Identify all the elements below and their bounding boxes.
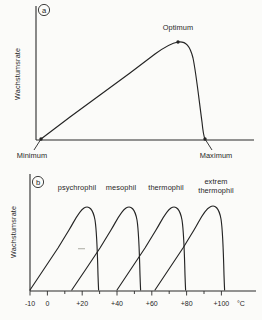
tick-label-plus60: +60 <box>146 300 158 307</box>
curve-label-thermophil: thermophil <box>148 183 184 192</box>
curve-psychrophil <box>30 207 99 290</box>
tick-label-0: 0 <box>45 300 49 307</box>
panel-b-y-axis-label: Wachstumsrate <box>9 206 18 258</box>
panel-a: Optimum Minimum Maximum Wachstumsrate a <box>0 0 262 160</box>
maximum-label: Maximum <box>200 151 233 160</box>
curve-thermophil <box>117 207 186 290</box>
tick-label-plus20: +20 <box>76 300 88 307</box>
figure-root: Optimum Minimum Maximum Wachstumsrate a <box>0 0 262 320</box>
scan-speck-artifact <box>78 248 85 249</box>
maximum-leader-line <box>205 139 212 150</box>
tick-label-plus40: +40 <box>111 300 123 307</box>
panel-a-growth-curve <box>41 42 205 139</box>
curve-label-extrem-thermophil: thermophil <box>198 186 234 195</box>
curve-label-extrem: extrem <box>204 177 227 186</box>
panel-a-chart: Optimum Minimum Maximum Wachstumsrate a <box>0 0 262 160</box>
panel-a-marker-label: a <box>42 6 47 15</box>
panel-a-y-axis-label: Wachstumsrate <box>13 48 22 100</box>
tick-label-plus100: +100 <box>214 300 230 307</box>
curve-label-psychrophil: psychrophil <box>58 183 97 192</box>
panel-b-marker-label: b <box>36 178 40 187</box>
tick-label-plus80: +80 <box>181 300 193 307</box>
panel-b: psychrophil mesophil thermophil extrem t… <box>0 160 262 320</box>
tick-label-minus10: -10 <box>25 300 35 307</box>
curve-extrem-thermophil <box>155 206 225 290</box>
x-axis-unit-label: °C <box>237 300 245 307</box>
optimum-label: Optimum <box>163 23 194 32</box>
optimum-point-marker <box>176 40 179 43</box>
curve-label-mesophil: mesophil <box>106 183 137 192</box>
panel-b-chart: psychrophil mesophil thermophil extrem t… <box>0 160 262 320</box>
minimum-label: Minimum <box>17 151 48 160</box>
minimum-leader-line <box>34 139 41 150</box>
